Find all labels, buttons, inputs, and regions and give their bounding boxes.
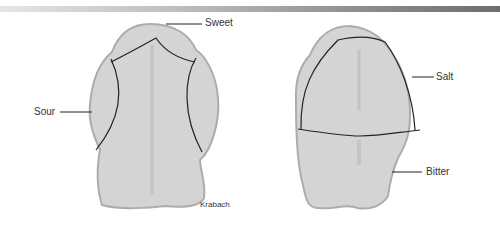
label-bitter: Bitter — [426, 166, 449, 177]
label-salt: Salt — [436, 71, 453, 82]
label-sweet: Sweet — [205, 17, 233, 28]
right-tongue — [296, 26, 434, 209]
label-sour: Sour — [34, 106, 55, 117]
tongue-illustrations — [0, 0, 500, 225]
illustrator-credit: Krabach — [200, 200, 230, 209]
left-tongue — [60, 24, 218, 208]
tongue-taste-map-diagram: Sweet Sour Krabach Salt Bitter — [0, 0, 500, 225]
